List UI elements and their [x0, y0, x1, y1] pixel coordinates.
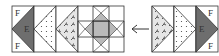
left-label-F-top: F — [15, 8, 20, 18]
left-dotted-triangle-block — [34, 6, 56, 52]
right-label-F-bottom: F — [208, 41, 213, 51]
right-flying-geese-block: F E F — [196, 6, 218, 52]
right-label-F-top: F — [208, 8, 213, 18]
left-label-F-bottom: F — [15, 41, 20, 51]
right-unit: F E F — [152, 6, 218, 52]
left-label-E: E — [24, 24, 30, 34]
right-label-E: E — [199, 24, 205, 34]
left-flying-geese-block: F E F — [12, 6, 34, 52]
left-arrow-icon — [132, 25, 149, 33]
left-unit: F E F — [12, 6, 124, 52]
right-dotted-triangle-block — [174, 6, 196, 52]
quilt-diagram: F E F — [0, 0, 219, 56]
left-leaf-triangle-block — [56, 6, 78, 52]
sawtooth-star-block — [78, 6, 124, 52]
right-leaf-triangle-block — [152, 6, 174, 52]
